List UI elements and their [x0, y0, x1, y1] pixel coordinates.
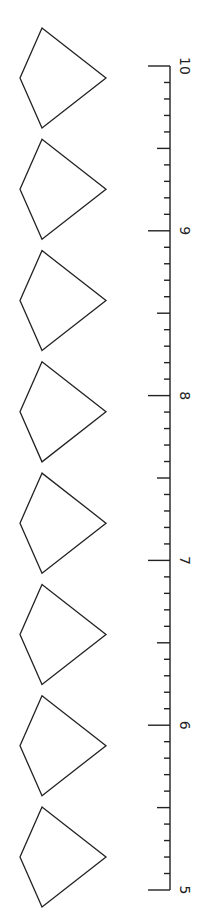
ruler-kites-diagram: 5678910 — [0, 0, 208, 918]
ruler-label: 7 — [177, 556, 193, 565]
ruler: 5678910 — [148, 57, 193, 894]
ruler-label: 6 — [177, 721, 193, 730]
ruler-label: 9 — [177, 226, 193, 235]
kite-shape — [20, 807, 106, 907]
ruler-label: 10 — [177, 57, 193, 75]
kite-shape — [20, 28, 106, 128]
kite-shape — [20, 251, 106, 351]
ruler-label: 8 — [177, 391, 193, 400]
kite-shape — [20, 362, 106, 462]
kite-shape — [20, 584, 106, 684]
kite-shape — [20, 473, 106, 573]
kite-group — [20, 28, 106, 907]
kite-shape — [20, 139, 106, 239]
kite-shape — [20, 696, 106, 796]
ruler-label: 5 — [177, 886, 193, 895]
